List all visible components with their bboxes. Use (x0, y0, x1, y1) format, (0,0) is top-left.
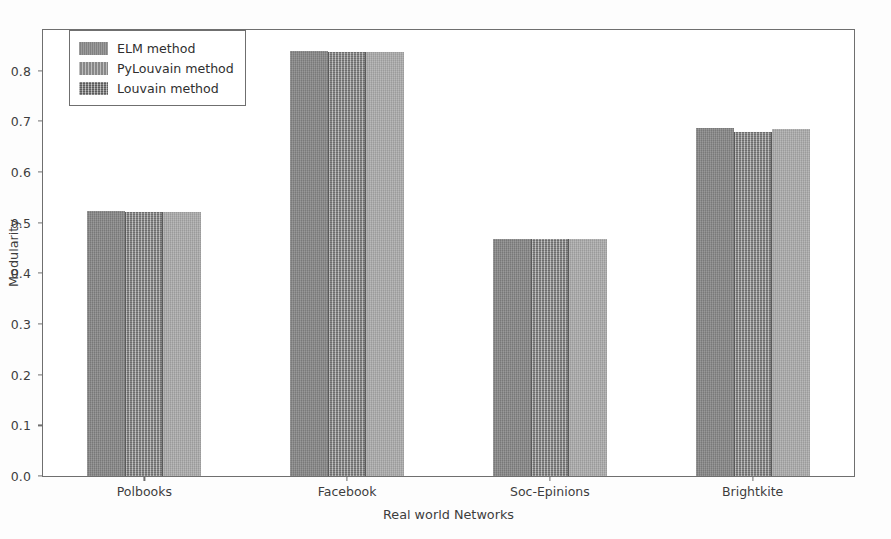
bar-brightkite-series-2 (772, 129, 810, 476)
bar-brightkite-series-1 (734, 132, 772, 476)
y-tick-label: 0.7 (0, 114, 31, 129)
legend-item: PyLouvain method (79, 58, 234, 78)
chart-legend: ELM methodPyLouvain methodLouvain method (69, 30, 246, 106)
x-tick-mark (144, 476, 145, 481)
y-tick-label: 0.5 (0, 215, 31, 230)
plot-frame: Modularity 0.00.10.20.30.40.50.60.70.8 P… (42, 29, 855, 477)
bar-facebook-series-2 (366, 52, 404, 476)
bar-soc-epinions-series-2 (569, 239, 607, 476)
bar-facebook-series-0 (290, 51, 328, 476)
x-tick-label: Polbooks (117, 484, 172, 499)
legend-label: Louvain method (117, 81, 219, 96)
legend-label: ELM method (117, 41, 195, 56)
legend-item: ELM method (79, 38, 234, 58)
legend-label: PyLouvain method (117, 61, 234, 76)
y-tick-label: 0.0 (0, 469, 31, 484)
legend-item: Louvain method (79, 78, 234, 98)
y-tick-label: 0.2 (0, 367, 31, 382)
x-tick-mark (752, 476, 753, 481)
legend-swatch-icon (79, 82, 108, 95)
y-tick-label: 0.1 (0, 418, 31, 433)
bar-polbooks-series-2 (163, 212, 201, 476)
x-tick-label: Brightkite (722, 484, 783, 499)
bar-soc-epinions-series-1 (531, 239, 569, 476)
y-tick-label: 0.8 (0, 63, 31, 78)
x-axis-label: Real world Networks (383, 507, 514, 522)
x-tick-label: Facebook (318, 484, 377, 499)
x-tick-mark (549, 476, 550, 481)
x-tick-mark (347, 476, 348, 481)
bar-facebook-series-1 (328, 52, 366, 476)
legend-swatch-icon (79, 62, 108, 75)
y-tick-label: 0.4 (0, 266, 31, 281)
bar-brightkite-series-0 (696, 128, 734, 476)
y-tick-label: 0.6 (0, 164, 31, 179)
bar-polbooks-series-0 (87, 211, 125, 476)
x-tick-label: Soc-Epinions (510, 484, 590, 499)
bar-soc-epinions-series-0 (493, 239, 531, 476)
bar-polbooks-series-1 (125, 212, 163, 476)
legend-swatch-icon (79, 42, 108, 55)
figure-canvas: Modularity 0.00.10.20.30.40.50.60.70.8 P… (0, 0, 891, 539)
y-tick-label: 0.3 (0, 316, 31, 331)
